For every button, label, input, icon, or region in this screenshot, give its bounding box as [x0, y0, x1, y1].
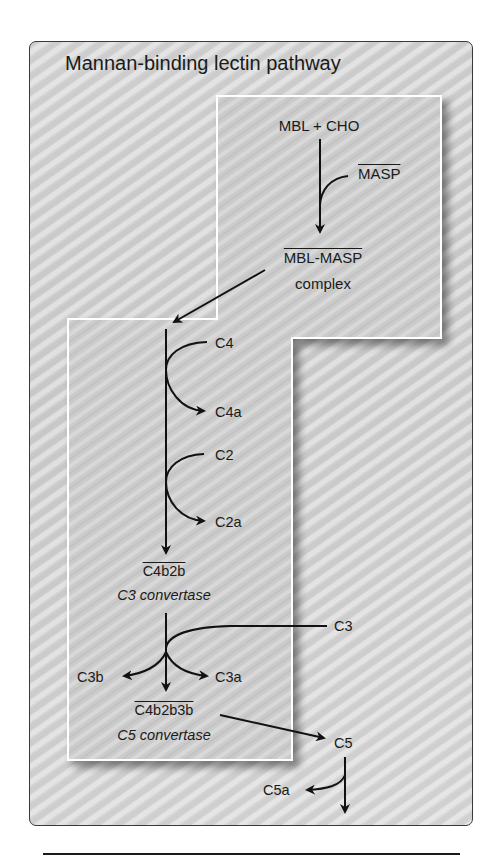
label-masp: MASP	[358, 166, 401, 181]
label-c4: C4	[215, 336, 234, 351]
bottom-rule	[43, 853, 460, 855]
label-c4b2b: C4b2b	[143, 564, 186, 579]
label-mbl-cho: MBL + CHO	[279, 118, 360, 133]
label-c3a: C3a	[215, 670, 242, 685]
label-c2a: C2a	[215, 515, 242, 530]
label-complex: complex	[295, 276, 351, 291]
label-c4b2b3b: C4b2b3b	[135, 703, 194, 718]
label-c4a: C4a	[215, 405, 242, 420]
label-c5: C5	[334, 736, 353, 751]
label-c3b: C3b	[77, 670, 104, 685]
pathway-diagram	[0, 0, 504, 861]
inner-panel	[68, 96, 441, 760]
label-c5-convertase: C5 convertase	[117, 728, 211, 743]
label-c2: C2	[215, 448, 234, 463]
label-c3: C3	[334, 619, 353, 634]
label-c3-convertase: C3 convertase	[117, 588, 211, 603]
label-c5a: C5a	[263, 783, 290, 798]
pathway-title: Mannan-binding lectin pathway	[65, 52, 341, 75]
label-mbl-masp: MBL-MASP	[284, 250, 362, 265]
arrow-c5a	[307, 775, 345, 790]
